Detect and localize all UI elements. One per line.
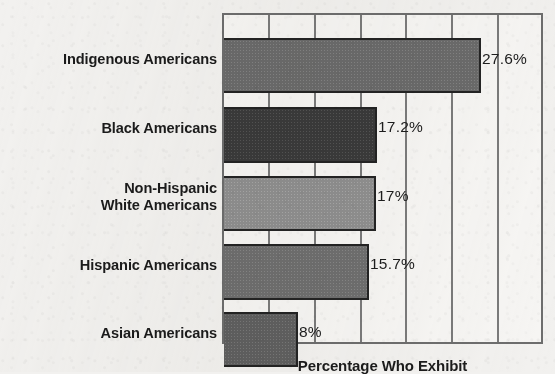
value-label-non-hispanic-white-americans: 17% [377,187,409,205]
bar-indigenous-americans[interactable] [224,38,481,93]
category-label-black-americans: Black Americans [12,120,217,137]
value-label-indigenous-americans: 27.6% [482,50,527,68]
bar-non-hispanic-white-americans[interactable] [224,176,376,231]
category-label-non-hispanic-white-americans: Non-Hispanic White Americans [12,180,217,214]
category-label-indigenous-americans: Indigenous Americans [12,51,217,68]
category-label-hispanic-americans: Hispanic Americans [12,257,217,274]
category-label-asian-americans: Asian Americans [12,325,217,342]
value-label-asian-americans: 8% [299,323,322,341]
bar-black-americans[interactable] [224,107,377,163]
value-label-black-americans: 17.2% [378,118,423,136]
x-axis-title: Percentage Who Exhibit [222,357,543,374]
value-label-hispanic-americans: 15.7% [370,255,415,273]
bar-hispanic-americans[interactable] [224,244,369,300]
